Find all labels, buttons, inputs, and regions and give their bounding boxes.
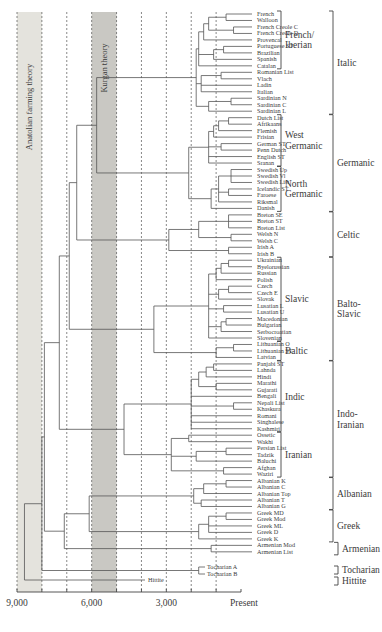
family-label: Italic (337, 58, 357, 68)
subgroup-label: WestGermanic (285, 130, 322, 151)
group-label-line: Baltic (285, 346, 308, 356)
group-label-line: Iranian (337, 420, 364, 430)
theory-band (92, 12, 117, 592)
leaf-labels: FrenchWalloonFrench Creole CFrench Creol… (148, 10, 299, 583)
family-bracket (329, 257, 333, 360)
family-bracket (334, 566, 338, 574)
axis-tick-label: 3,000 (156, 598, 178, 608)
family-label: Armenian (342, 544, 380, 554)
family-label: Tocharian (342, 565, 380, 575)
family-label: Balto-Slavic (337, 299, 361, 320)
family-bracket (329, 478, 333, 510)
group-brackets: French/IberianWestGermanicNorthGermanicS… (277, 11, 380, 586)
family-label: Hittite (342, 576, 366, 586)
group-label-line: Iranian (285, 450, 312, 460)
family-bracket (329, 510, 333, 542)
axis-tick-label: 9,000 (6, 598, 28, 608)
group-label-line: Germanic (285, 189, 322, 199)
time-axis: 9,0006,0003,000Present (6, 589, 258, 608)
family-bracket (334, 577, 338, 585)
family-label: Celtic (337, 230, 360, 240)
subgroup-bracket (277, 432, 281, 477)
axis-tick-label: Present (230, 598, 258, 608)
tree-branches (24, 14, 252, 580)
group-label-line: Slavic (285, 294, 309, 304)
tree-svg: Anatolian farming theoryKurgan theory Fr… (0, 0, 382, 632)
group-label-line: Indo- (337, 409, 358, 419)
group-label-line: Germanic (337, 158, 374, 168)
family-bracket (329, 212, 333, 257)
group-label-line: Greek (337, 521, 360, 531)
axis-tick-label: 6,000 (81, 598, 103, 608)
family-label: Indo-Iranian (337, 409, 364, 430)
group-label-line: Slavic (337, 309, 361, 319)
leaf-label: Armenian List (257, 548, 293, 555)
group-label-line: Armenian (342, 544, 380, 554)
family-label: Greek (337, 521, 360, 531)
group-label-line: Albanian (337, 489, 372, 499)
outlier-label: Tocharian B (207, 570, 237, 577)
group-label-line: Iberian (285, 40, 312, 50)
anatolian-theory-label: Anatolian farming theory (24, 63, 34, 150)
family-label: Germanic (337, 158, 374, 168)
phylogenetic-tree-figure: Anatolian farming theoryKurgan theory Fr… (0, 0, 382, 632)
subgroup-label: Indic (285, 392, 305, 402)
group-label-line: Tocharian (342, 565, 380, 575)
kurgan-theory-label: Kurgan theory (99, 43, 109, 93)
family-bracket (329, 115, 333, 212)
family-bracket (329, 11, 333, 114)
group-label-line: Hittite (342, 576, 366, 586)
outlier-label: Hittite (148, 576, 164, 583)
family-bracket (329, 361, 333, 477)
group-label-line: Germanic (285, 141, 322, 151)
subgroup-label: French/Iberian (285, 30, 314, 51)
group-label-line: Italic (337, 58, 357, 68)
group-label-line: Celtic (337, 230, 360, 240)
subgroup-label: Slavic (285, 294, 309, 304)
group-label-line: North (285, 179, 307, 189)
group-label-line: West (285, 130, 304, 140)
group-label-line: Indic (285, 392, 305, 402)
family-bracket (334, 542, 338, 554)
subgroup-label: NorthGermanic (285, 179, 322, 200)
subgroup-label: Iranian (285, 450, 312, 460)
family-label: Albanian (337, 489, 372, 499)
group-label-line: French/ (285, 30, 314, 40)
subgroup-label: Baltic (285, 346, 308, 356)
outlier-label: Tocharian A (207, 563, 238, 570)
group-label-line: Balto- (337, 299, 361, 309)
